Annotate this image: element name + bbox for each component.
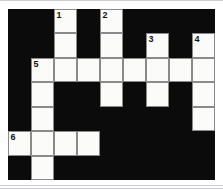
crossword-cell-block [123,107,146,131]
crossword-cell-open[interactable]: 6 [8,131,31,155]
page-bottom-rule-secondary [0,188,223,189]
crossword-cell-open[interactable] [31,107,54,131]
page-top-rule [0,0,223,1]
crossword-cell-block [146,107,169,131]
crossword-cell-block [192,9,215,33]
crossword-cell-open[interactable] [192,58,215,82]
crossword-row: 6 [8,131,215,155]
crossword-clue-number: 5 [34,59,39,70]
crossword-cell-open[interactable] [77,58,100,82]
crossword-row [8,82,215,106]
crossword-cell-block [77,107,100,131]
crossword-cell-block [169,9,192,33]
crossword-cell-open[interactable] [169,58,192,82]
crossword-cell-block [54,107,77,131]
crossword-cell-block [123,131,146,155]
crossword-row: 34 [8,33,215,57]
crossword-row [8,156,215,180]
crossword-cell-block [8,82,31,106]
crossword-cell-open[interactable] [192,107,215,131]
crossword-cell-block [169,33,192,57]
crossword-cell-open[interactable] [54,131,77,155]
crossword-cell-block [123,82,146,106]
crossword-cell-block [169,82,192,106]
crossword-cell-open[interactable] [54,33,77,57]
crossword-cell-open[interactable]: 5 [31,58,54,82]
crossword-cell-open[interactable] [146,82,169,106]
crossword-row: 12 [8,9,215,33]
crossword-cell-open[interactable]: 4 [192,33,215,57]
crossword-cell-block [192,156,215,180]
crossword-row: 5 [8,58,215,82]
crossword-cell-block [146,9,169,33]
crossword-cell-open[interactable] [31,131,54,155]
crossword-clue-number: 4 [195,34,200,45]
crossword-cell-open[interactable] [123,58,146,82]
crossword-cell-block [123,9,146,33]
crossword-row [8,107,215,131]
crossword-cell-block [123,33,146,57]
crossword-cell-open[interactable] [100,33,123,57]
crossword-cell-block [8,156,31,180]
crossword-cell-open[interactable] [31,82,54,106]
crossword-puzzle-page: 123456 [0,0,223,189]
crossword-cell-open[interactable] [192,82,215,106]
crossword-cell-block [100,107,123,131]
crossword-cell-block [146,131,169,155]
crossword-cell-block [169,156,192,180]
crossword-clue-number: 1 [57,10,62,21]
crossword-cell-block [123,156,146,180]
crossword-cell-block [169,131,192,155]
crossword-cell-block [8,58,31,82]
crossword-cell-open[interactable]: 3 [146,33,169,57]
crossword-cell-open[interactable] [146,58,169,82]
crossword-clue-number: 2 [103,10,108,21]
crossword-cell-open[interactable] [100,82,123,106]
crossword-cell-open[interactable] [100,58,123,82]
crossword-grid[interactable]: 123456 [8,9,215,180]
crossword-cell-open[interactable]: 1 [54,9,77,33]
crossword-cell-block [31,9,54,33]
crossword-cell-open[interactable] [31,156,54,180]
crossword-cell-block [77,156,100,180]
crossword-cell-open[interactable]: 2 [100,9,123,33]
crossword-cell-block [8,33,31,57]
crossword-cell-block [8,107,31,131]
crossword-clue-number: 6 [11,132,16,143]
crossword-cell-block [54,156,77,180]
crossword-cell-block [146,156,169,180]
crossword-cell-block [192,131,215,155]
crossword-cell-block [77,82,100,106]
crossword-clue-number: 3 [149,34,154,45]
crossword-cell-block [31,33,54,57]
crossword-cell-open[interactable] [77,131,100,155]
crossword-cell-block [169,107,192,131]
page-bottom-rule [0,185,223,186]
crossword-cell-block [100,131,123,155]
crossword-cell-open[interactable] [54,58,77,82]
crossword-cell-block [100,156,123,180]
crossword-cell-block [77,33,100,57]
crossword-cell-block [77,9,100,33]
crossword-cell-block [54,82,77,106]
crossword-cell-block [8,9,31,33]
